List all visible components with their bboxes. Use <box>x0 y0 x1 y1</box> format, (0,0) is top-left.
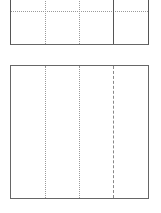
vertical-dotted-guide-2 <box>79 0 80 44</box>
vertical-dotted-guide-1 <box>45 0 46 44</box>
vertical-solid-divider <box>113 0 114 44</box>
bottom-panel <box>10 65 149 199</box>
vertical-dotted-guide-1 <box>45 66 46 198</box>
top-panel <box>10 0 149 45</box>
vertical-dashed-divider <box>113 66 114 198</box>
vertical-dotted-guide-2 <box>79 66 80 198</box>
